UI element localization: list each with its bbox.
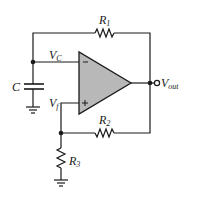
r2-resistor-icon [95, 129, 114, 137]
r2-label: R2 [99, 114, 110, 128]
c-label: C [12, 81, 20, 93]
circuit-diagram: R1 VC C Vout Vf R2 R3 [0, 0, 198, 199]
r3-resistor-icon [57, 148, 65, 168]
vf-wire [61, 103, 79, 133]
junction-vout [148, 81, 153, 86]
opamp-triangle [79, 52, 131, 114]
r1-resistor-icon [95, 29, 114, 37]
junction-vf [59, 131, 64, 136]
r3-label: R3 [69, 155, 80, 169]
vc-label: VC [49, 49, 62, 63]
r3-branch [54, 133, 68, 186]
vout-label: Vout [161, 77, 179, 91]
ground-icon-c [26, 107, 40, 113]
capacitor-branch [24, 62, 44, 113]
junction-vc [31, 60, 36, 65]
vf-label: Vf [49, 97, 59, 111]
output-terminal [154, 80, 159, 85]
schematic-drawing [0, 0, 198, 199]
ground-icon-r3 [54, 180, 68, 186]
r1-label: R1 [99, 14, 110, 28]
